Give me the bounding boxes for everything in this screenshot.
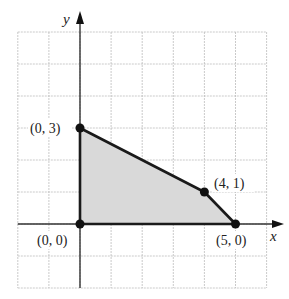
point-label-0-0: (0, 0) [37,233,68,249]
vertex-point-icon [76,124,85,133]
point-label-4-1: (4, 1) [214,176,245,192]
point-label-5-0: (5, 0) [216,233,247,249]
vertex-point-icon [76,220,85,229]
x-axis-label: x [269,228,277,244]
graph-svg: x y (0, 3) (4, 1) (0, 0) (5, 0) [0,0,289,299]
point-label-0-3: (0, 3) [30,121,61,137]
y-axis-label: y [61,11,70,27]
y-axis-arrow-icon [76,11,84,24]
vertex-point-icon [200,188,209,197]
x-axis-arrow-icon [272,220,284,228]
coordinate-plane-figure: x y (0, 3) (4, 1) (0, 0) (5, 0) [0,0,289,299]
vertex-point-icon [231,220,240,229]
